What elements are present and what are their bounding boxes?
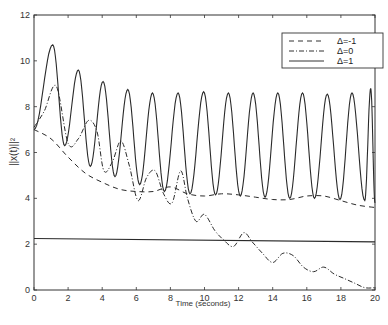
- x-tick-label: 20: [370, 293, 380, 303]
- series-deltaminus-1-bound: [34, 238, 375, 241]
- x-tick-label: 16: [302, 293, 312, 303]
- y-tick-label: 0: [25, 285, 30, 295]
- y-tick-label: 12: [20, 10, 30, 20]
- legend-label-delta-minus-1: Δ=-1: [337, 36, 356, 46]
- x-tick-label: 0: [31, 293, 36, 303]
- x-tick-label: 14: [268, 293, 278, 303]
- legend-label-delta-1: Δ=1: [337, 56, 353, 66]
- line-chart: 02468101214161820024681012 Δ=-1 Δ=0 Δ=1 …: [0, 0, 388, 325]
- y-tick-label: 10: [20, 56, 30, 66]
- data-series: [34, 45, 375, 288]
- legend: Δ=-1 Δ=0 Δ=1: [282, 33, 383, 68]
- x-tick-label: 6: [134, 293, 139, 303]
- x-tick-label: 8: [168, 293, 173, 303]
- legend-box: [282, 33, 383, 68]
- y-tick-label: 2: [25, 239, 30, 249]
- y-axis-title: ||x(t)||²: [8, 137, 19, 166]
- x-tick-label: 12: [234, 293, 244, 303]
- x-tick-label: 4: [100, 293, 105, 303]
- x-tick-label: 2: [66, 293, 71, 303]
- y-tick-label: 6: [25, 148, 30, 158]
- x-axis-title: Time (seconds): [176, 299, 231, 308]
- y-tick-label: 4: [25, 193, 30, 203]
- y-tick-label: 8: [25, 102, 30, 112]
- series-deltaminus-1: [34, 45, 375, 203]
- series-delta-minus-1: [34, 130, 375, 208]
- legend-label-delta-0: Δ=0: [337, 46, 353, 56]
- x-tick-label: 18: [336, 293, 346, 303]
